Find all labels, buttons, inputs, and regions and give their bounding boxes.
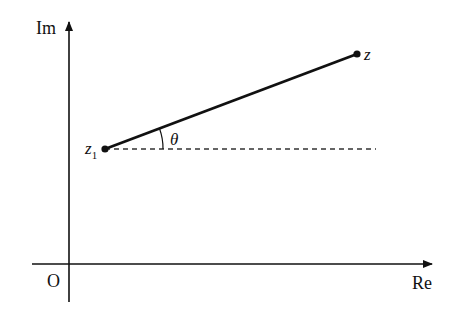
origin-label: O <box>47 271 60 291</box>
imaginary-axis-label: Im <box>36 18 56 38</box>
angle-label: θ <box>170 130 178 149</box>
angle-arc <box>160 129 164 150</box>
complex-plane-diagram: Im Re O z1 z θ <box>0 0 458 310</box>
point-z-label: z <box>363 45 371 64</box>
point-z <box>353 50 360 57</box>
real-axis-label: Re <box>412 273 432 293</box>
point-z1-label: z1 <box>84 139 97 161</box>
point-z1 <box>101 145 108 152</box>
segment-z1-z <box>105 54 357 149</box>
